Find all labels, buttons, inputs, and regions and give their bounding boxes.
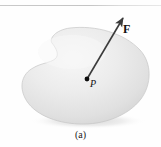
force-vector-label: F bbox=[123, 23, 130, 35]
figure-illustration bbox=[0, 0, 161, 147]
figure-stage: F P bbox=[0, 0, 161, 147]
point-p-dot bbox=[85, 77, 90, 82]
figure-panel: F P (a) bbox=[0, 0, 161, 147]
point-p-label: P bbox=[90, 79, 96, 89]
figure-caption: (a) bbox=[0, 129, 161, 140]
